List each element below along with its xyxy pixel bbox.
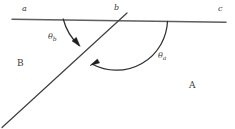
region-label-b: B — [17, 59, 24, 68]
arrowhead-theta-a — [90, 59, 100, 66]
point-label-c: c — [218, 5, 222, 13]
angle-arc-theta-a — [93, 21, 168, 70]
angle-label-theta-a: θa — [158, 52, 166, 60]
figure-canvas — [0, 0, 235, 129]
angle-label-theta-b: θb — [48, 33, 57, 41]
geometry-figure: a b c θb θa B A — [0, 0, 235, 129]
theta-a-subscript: a — [163, 54, 167, 61]
region-label-a: A — [189, 81, 196, 90]
point-label-b: b — [114, 4, 119, 12]
theta-b-subscript: b — [53, 35, 57, 42]
point-label-a: a — [22, 5, 27, 13]
transversal-line — [2, 13, 127, 128]
